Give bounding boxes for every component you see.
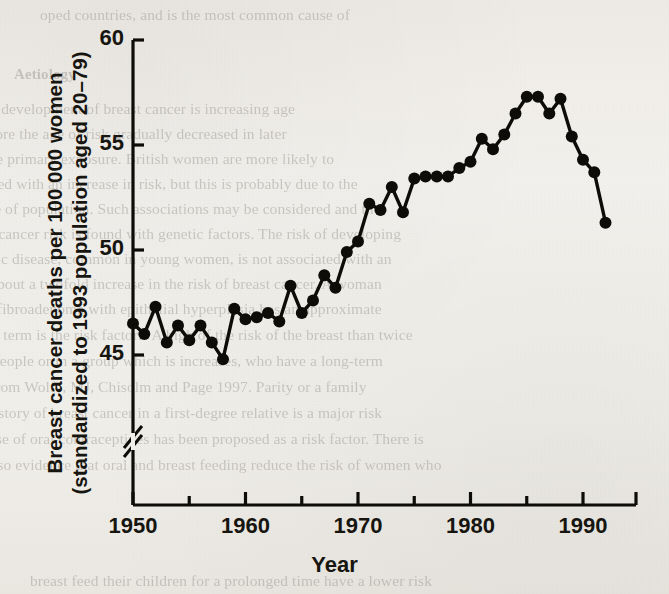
- data-point: [555, 93, 567, 105]
- data-point: [442, 171, 454, 183]
- data-point: [386, 181, 398, 193]
- data-point: [251, 311, 263, 323]
- data-point: [206, 336, 218, 348]
- data-point: [228, 303, 240, 315]
- data-point: [352, 236, 364, 248]
- data-point: [273, 315, 285, 327]
- x-tick-label: 1950: [88, 513, 178, 539]
- data-point: [307, 294, 319, 306]
- data-point: [240, 313, 252, 325]
- data-point: [521, 91, 533, 103]
- data-point: [217, 353, 229, 365]
- data-point: [465, 156, 477, 168]
- data-point: [161, 336, 173, 348]
- data-point: [330, 282, 342, 294]
- data-point: [172, 320, 184, 332]
- data-point: [195, 320, 207, 332]
- data-point: [420, 171, 432, 183]
- x-tick-label: 1960: [201, 513, 291, 539]
- data-point: [127, 318, 139, 330]
- data-point: [566, 131, 578, 143]
- data-point: [341, 246, 353, 258]
- data-point: [375, 204, 387, 216]
- data-point: [150, 301, 162, 313]
- data-point: [543, 108, 555, 120]
- y-tick-label: 45: [88, 340, 124, 366]
- chart-axes: [124, 40, 636, 505]
- y-tick-label: 50: [88, 235, 124, 261]
- x-axis-title: Year: [0, 552, 669, 578]
- data-point: [577, 154, 589, 166]
- data-point: [600, 217, 612, 229]
- y-axis-title: Breast cancer deaths per 100 000 women (…: [42, 38, 92, 508]
- data-point: [397, 206, 409, 218]
- chart-figure: Breast cancer deaths per 100 000 women (…: [0, 0, 669, 594]
- data-point: [285, 280, 297, 292]
- chart-plot-area: [0, 0, 669, 594]
- y-tick-label: 60: [88, 25, 124, 51]
- data-point: [183, 334, 195, 346]
- data-point: [498, 129, 510, 141]
- data-line: [133, 97, 606, 360]
- chart-series-line: [127, 91, 612, 366]
- data-point: [138, 328, 150, 340]
- y-tick-label: 55: [88, 130, 124, 156]
- x-tick-label: 1990: [538, 513, 628, 539]
- data-point: [476, 133, 488, 145]
- data-point: [510, 108, 522, 120]
- x-tick-label: 1970: [313, 513, 403, 539]
- data-point: [487, 143, 499, 155]
- data-point: [363, 198, 375, 210]
- x-tick-label: 1980: [426, 513, 516, 539]
- data-point: [318, 269, 330, 281]
- data-point: [296, 307, 308, 319]
- data-point: [262, 307, 274, 319]
- data-point: [453, 162, 465, 174]
- data-point: [431, 171, 443, 183]
- data-point: [532, 91, 544, 103]
- data-point: [588, 166, 600, 178]
- data-point: [408, 173, 420, 185]
